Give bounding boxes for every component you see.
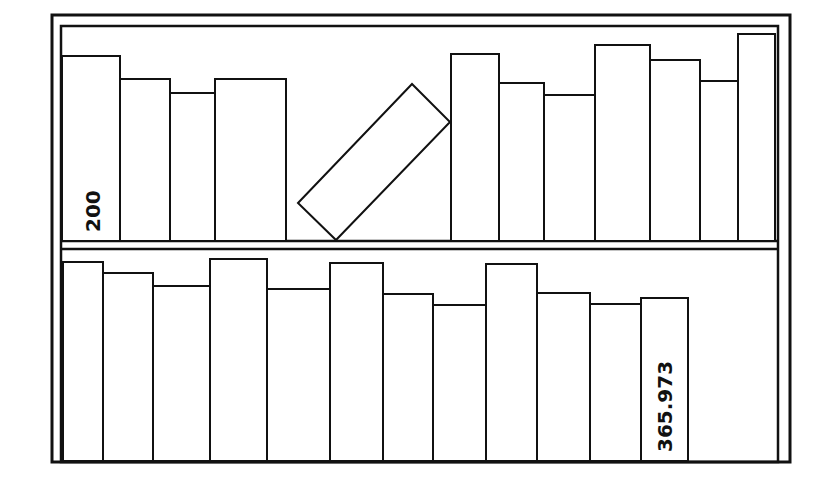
bottom-book-11 xyxy=(590,304,641,461)
top-book-11 xyxy=(738,34,775,241)
top-shelf xyxy=(62,34,775,241)
top-book-9 xyxy=(650,60,700,241)
top-book-8 xyxy=(595,45,650,241)
top-book-4 xyxy=(215,79,286,241)
top-book-6 xyxy=(499,83,544,241)
top-book-7 xyxy=(544,95,595,241)
bottom-book-4 xyxy=(210,259,267,461)
bottom-book-6 xyxy=(330,263,383,461)
top-book-2 xyxy=(120,79,170,241)
spine-label-365-973: 365.973 xyxy=(653,361,677,452)
bottom-book-2 xyxy=(103,273,153,461)
bottom-book-10 xyxy=(537,293,590,461)
bottom-book-1 xyxy=(63,262,103,461)
top-book-5 xyxy=(451,54,499,241)
bottom-shelf xyxy=(63,259,688,461)
bottom-book-9 xyxy=(486,264,537,461)
top-book-10 xyxy=(700,81,738,241)
spine-label-200: 200 xyxy=(81,190,105,232)
bottom-book-7 xyxy=(383,294,433,461)
bottom-book-8 xyxy=(433,305,486,461)
bookshelf-illustration: 200 365.973 xyxy=(0,0,817,495)
tilted-book xyxy=(298,84,450,240)
bottom-book-3 xyxy=(153,286,210,461)
bottom-book-5 xyxy=(267,289,330,461)
top-book-3 xyxy=(170,93,215,241)
